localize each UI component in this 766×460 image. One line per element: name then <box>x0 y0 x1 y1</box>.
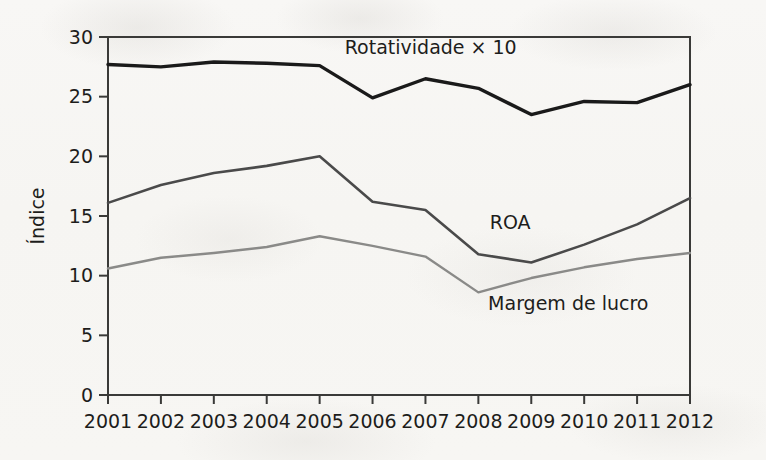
x-tick-label: 2010 <box>560 410 608 432</box>
y-tick-label: 30 <box>69 26 93 48</box>
x-tick-label: 2006 <box>348 410 396 432</box>
y-axis-title: Índice <box>26 187 48 244</box>
series-line-rotatividade-10 <box>108 62 690 115</box>
series-line-roa <box>108 156 690 262</box>
x-tick-label: 2012 <box>666 410 714 432</box>
series-annotation-labels: Rotatividade × 10ROAMargem de lucro <box>345 36 649 315</box>
x-tick-label: 2001 <box>84 410 132 432</box>
x-tick-label: 2007 <box>401 410 449 432</box>
data-series-group <box>108 62 690 292</box>
x-tick-label: 2005 <box>295 410 343 432</box>
plot-frame <box>108 37 690 395</box>
series-label-margem-de-lucro: Margem de lucro <box>488 292 648 314</box>
y-tick-label: 20 <box>69 145 93 167</box>
y-tick-label: 10 <box>69 264 93 286</box>
x-tick-label: 2009 <box>507 410 555 432</box>
plot-frame-border <box>108 37 690 395</box>
y-tick-label: 15 <box>69 205 93 227</box>
y-axis-tick-labels: 051015202530 <box>69 26 93 406</box>
line-chart: 051015202530 200120022003200420052006200… <box>0 0 766 460</box>
x-tick-label: 2011 <box>613 410 661 432</box>
series-line-margem-de-lucro <box>108 236 690 292</box>
y-tick-label: 0 <box>81 384 93 406</box>
chart-figure: 051015202530 200120022003200420052006200… <box>0 0 766 460</box>
series-label-roa: ROA <box>490 211 531 233</box>
y-axis-ticks <box>99 37 108 395</box>
x-tick-label: 2008 <box>454 410 502 432</box>
y-tick-label: 5 <box>81 324 93 346</box>
x-axis-tick-labels: 2001200220032004200520062007200820092010… <box>84 410 714 432</box>
x-tick-label: 2003 <box>190 410 238 432</box>
x-axis-ticks <box>108 395 690 404</box>
x-tick-label: 2002 <box>137 410 185 432</box>
series-label-rotatividade-10: Rotatividade × 10 <box>345 36 517 58</box>
y-tick-label: 25 <box>69 85 93 107</box>
x-tick-label: 2004 <box>243 410 291 432</box>
